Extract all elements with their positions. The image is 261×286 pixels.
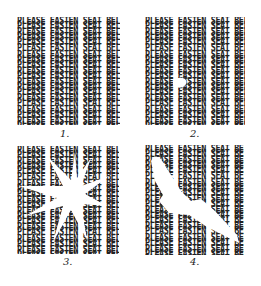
panel-1-label: 1.: [60, 128, 70, 139]
panel-3-label: 3.: [63, 256, 73, 267]
panel-4-label: 4.: [190, 256, 200, 267]
panel-2-label: 2.: [190, 128, 200, 139]
starburst-shape: [17, 146, 119, 254]
panel-2: PLEASE FASTEN SEAT BELTPLEASE FASTEN SEA…: [145, 17, 245, 125]
panel-4: PLEASE FASTEN SEAT BELTPLEASE FASTEN SEA…: [145, 145, 244, 255]
white-spot: [145, 17, 245, 125]
panel-3: PLEASE FASTEN SEAT BELTPLEASE FASTEN SEA…: [17, 146, 119, 254]
panel-1: PLEASE FASTEN SEAT BELTPLEASE FASTEN SEA…: [17, 17, 120, 125]
text-pattern: PLEASE FASTEN SEAT BELTPLEASE FASTEN SEA…: [17, 17, 120, 125]
diagonal-streak: [145, 145, 244, 255]
